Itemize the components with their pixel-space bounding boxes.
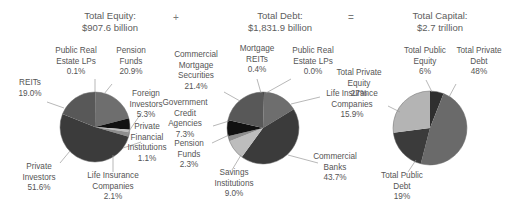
label-line: Institutions: [204, 179, 264, 190]
label-value: 6%: [395, 67, 455, 78]
pie-chart-capital: [393, 91, 467, 165]
label-equity-life-insurance-companies: Life Insurance Companies 2.1%: [76, 171, 150, 203]
label-line: Credit: [156, 109, 214, 120]
label-debt-government-credit-agencies: Government Credit Agencies 7.3%: [156, 98, 214, 140]
label-value: 20.9%: [108, 67, 154, 78]
label-line: REITs: [231, 55, 283, 66]
infographic-canvas: Total Equity: $907.6 billion + Total Deb…: [0, 0, 510, 204]
label-debt-pension-funds: Pension Funds 2.3%: [166, 139, 212, 171]
label-line: Debt: [450, 57, 508, 68]
leader-debt-government-credit-agencies: [213, 121, 229, 126]
leader-debt-mortgage-reits: [257, 79, 261, 93]
label-line: Securities: [166, 71, 226, 82]
label-line: Total Public: [395, 46, 455, 57]
label-line: Funds: [166, 150, 212, 161]
label-value: 21.4%: [166, 82, 226, 93]
label-line: Pension: [166, 139, 212, 150]
leader-capital-total-public-equity: [426, 80, 432, 92]
label-debt-commercial-banks: Commercial Banks 43.7%: [306, 152, 364, 184]
label-capital-total-private-equity: Total Private Equity 27%: [330, 68, 388, 100]
label-equity-public-real-estate-lps: Public Real Estate LPs 0.1%: [44, 46, 108, 78]
label-line: Savings: [204, 168, 264, 179]
leader-debt-commercial-mortgage-securities: [224, 92, 240, 101]
label-capital-total-private-debt: Total Private Debt 48%: [450, 46, 508, 78]
label-value: 43.7%: [306, 173, 364, 184]
leader-equity-reits: [47, 102, 64, 108]
label-value: 0.1%: [44, 67, 108, 78]
label-line: Public Real: [44, 46, 108, 57]
label-value: 15.9%: [316, 110, 388, 121]
label-line: Debt: [372, 182, 432, 193]
label-line: Companies: [316, 100, 388, 111]
label-debt-savings-institutions: Savings Institutions 9.0%: [204, 168, 264, 200]
label-line: Banks: [306, 163, 364, 174]
leader-debt-pension-funds: [212, 135, 229, 143]
label-value: 19.0%: [10, 89, 50, 100]
label-capital-total-public-debt: Total Public Debt 19%: [372, 171, 432, 203]
label-line: Equity: [330, 79, 388, 90]
label-line: Mortgage: [166, 61, 226, 72]
leader-debt-public-real-estate-lps: [266, 79, 291, 93]
label-value: 9.0%: [204, 189, 264, 200]
label-line: Pension: [108, 46, 154, 57]
label-line: Investors: [14, 173, 64, 184]
label-line: Government: [156, 98, 214, 109]
label-line: Equity: [395, 57, 455, 68]
label-value: 19%: [372, 192, 432, 203]
label-capital-total-public-equity: Total Public Equity 6%: [395, 46, 455, 78]
label-value: 48%: [450, 67, 508, 78]
label-line: Total Private: [450, 46, 508, 57]
label-value: 51.6%: [14, 183, 64, 194]
leader-capital-total-private-debt: [449, 84, 456, 97]
label-value: 2.1%: [76, 192, 150, 203]
label-value: 27%: [330, 89, 388, 100]
label-debt-commercial-mortgage-securities: Commercial Mortgage Securities 21.4%: [166, 50, 226, 92]
label-line: Total Public: [372, 171, 432, 182]
label-line: Funds: [108, 57, 154, 68]
label-debt-mortgage-reits: Mortgage REITs 0.4%: [231, 44, 283, 76]
label-value: 0.4%: [231, 65, 283, 76]
label-equity-private-investors: Private Investors 51.6%: [14, 162, 64, 194]
label-line: Commercial: [306, 152, 364, 163]
label-line: Commercial: [166, 50, 226, 61]
label-line: Private: [14, 162, 64, 173]
pie-chart-debt: [227, 92, 299, 164]
label-line: Life Insurance: [76, 171, 150, 182]
label-line: Estate LPs: [283, 57, 343, 68]
label-equity-reits: REITs 19.0%: [10, 78, 50, 99]
leader-equity-pension-funds: [104, 84, 112, 94]
label-line: REITs: [10, 78, 50, 89]
slice-capital-total-private-equity: [393, 91, 430, 133]
label-equity-pension-funds: Pension Funds 20.9%: [108, 46, 154, 78]
label-line: Total Private: [330, 68, 388, 79]
label-line: Companies: [76, 182, 150, 193]
label-line: Agencies: [156, 119, 214, 130]
label-line: Public Real: [283, 46, 343, 57]
label-line: Estate LPs: [44, 57, 108, 68]
label-line: Mortgage: [231, 44, 283, 55]
